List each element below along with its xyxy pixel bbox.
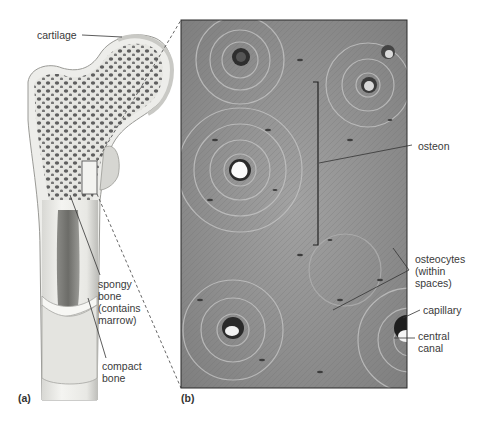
label-central-canal: central canal — [418, 330, 450, 354]
label-capillary: capillary — [423, 304, 462, 316]
label-spongy-bone: spongy bone (contains marrow) — [98, 278, 141, 326]
magnified-region-box — [82, 161, 97, 194]
femur-illustration — [28, 35, 172, 400]
label-osteocytes: osteocytes (within spaces) — [415, 253, 465, 289]
label-osteon: osteon — [418, 140, 450, 152]
label-cartilage: cartilage — [37, 29, 77, 41]
label-compact-bone: compact bone — [102, 360, 142, 384]
diagram-artwork — [0, 0, 488, 425]
panel-label-a: (a) — [18, 392, 31, 404]
panel-label-b: (b) — [181, 392, 194, 404]
